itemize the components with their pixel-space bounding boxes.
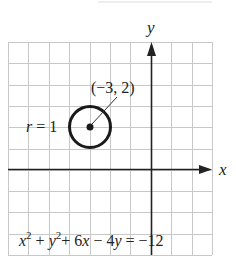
x-axis-label: x [218,160,227,179]
y-axis-arrow-icon [147,42,156,56]
eq-rhs: = −12 [122,232,164,249]
y-axis: y [145,18,156,255]
equation: x2 + y2+ 6x − 4y = −12 [16,222,206,250]
eq-plus-6: + 6 [61,232,82,249]
center-point-icon [87,124,94,131]
radius-value: = 1 [32,118,57,135]
x-axis-arrow-icon [199,165,212,174]
equation-text: x2 + y2+ 6x − 4y = −12 [18,229,164,250]
center-leader-line [92,97,117,124]
x-axis: x [8,160,227,179]
y-axis-label: y [145,18,155,37]
eq-x: x [18,232,26,249]
center-label: (−3, 2) [91,79,135,97]
coordinate-plane-figure: x y (−3, 2) r = 1 x2 + y2+ 6x − 4y = −12 [0,0,236,259]
eq-minus-4: − 4 [89,232,114,249]
eq-x2: x [81,232,89,249]
eq-plus: + [32,232,49,249]
radius-label: r = 1 [26,118,57,135]
circle-graph [70,97,118,148]
